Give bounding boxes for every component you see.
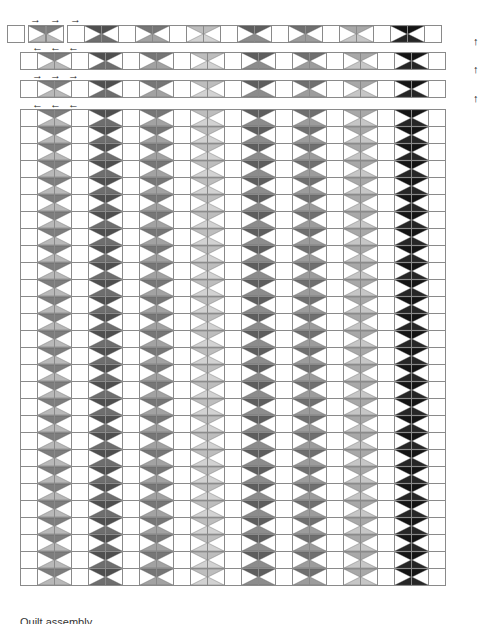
hourglass-half-cell (241, 449, 259, 467)
plain-square-cell (424, 25, 442, 43)
hourglass-half-cell (309, 483, 327, 501)
plain-square-cell (122, 279, 140, 297)
plain-square-cell (428, 466, 446, 484)
hourglass-half-cell (394, 296, 412, 314)
plain-square-cell (20, 398, 38, 416)
hourglass-half-cell (360, 517, 378, 535)
plain-square-cell (122, 126, 140, 144)
hourglass-half-cell (54, 194, 72, 212)
hourglass-half-cell (105, 160, 123, 178)
hourglass-half-cell (258, 143, 276, 161)
hourglass-half-cell (139, 296, 157, 314)
plain-square-cell (275, 160, 293, 178)
hourglass-half-cell (37, 245, 55, 263)
plain-square-cell (428, 330, 446, 348)
plain-square-cell (275, 80, 293, 98)
plain-square-cell (20, 52, 38, 70)
hourglass-half-cell (190, 211, 208, 229)
hourglass-half-cell (37, 279, 55, 297)
hourglass-half-cell (156, 415, 174, 433)
hourglass-half-cell (88, 551, 106, 569)
hourglass-half-cell (309, 313, 327, 331)
hourglass-half-cell (411, 483, 429, 501)
hourglass-half-cell (37, 296, 55, 314)
hourglass-half-cell (203, 25, 221, 43)
plain-square-cell (275, 52, 293, 70)
plain-square-cell (20, 534, 38, 552)
hourglass-half-cell (54, 500, 72, 518)
hourglass-half-cell (88, 279, 106, 297)
hourglass-half-cell (411, 500, 429, 518)
plain-square-cell (173, 483, 191, 501)
hourglass-half-cell (156, 551, 174, 569)
hourglass-half-cell (292, 313, 310, 331)
hourglass-half-cell (258, 449, 276, 467)
hourglass-half-cell (343, 52, 361, 70)
plain-square-cell (71, 194, 89, 212)
hourglass-half-cell (207, 398, 225, 416)
plain-square-cell (71, 211, 89, 229)
hourglass-half-cell (37, 52, 55, 70)
plain-square-cell (173, 194, 191, 212)
plain-square-cell (377, 228, 395, 246)
hourglass-half-cell (411, 245, 429, 263)
hourglass-half-cell (394, 330, 412, 348)
hourglass-half-cell (190, 177, 208, 195)
hourglass-half-cell (258, 500, 276, 518)
hourglass-half-cell (54, 279, 72, 297)
hourglass-half-cell (411, 551, 429, 569)
plain-square-cell (173, 517, 191, 535)
hourglass-half-cell (241, 313, 259, 331)
hourglass-half-cell (360, 500, 378, 518)
hourglass-half-cell (105, 568, 123, 586)
hourglass-half-cell (207, 126, 225, 144)
plain-square-cell (20, 568, 38, 586)
hourglass-half-cell (105, 262, 123, 280)
hourglass-half-cell (360, 330, 378, 348)
plain-square-cell (275, 449, 293, 467)
hourglass-half-cell (411, 313, 429, 331)
plain-square-cell (224, 534, 242, 552)
plain-square-cell (275, 194, 293, 212)
hourglass-half-cell (360, 313, 378, 331)
grid-row (20, 466, 446, 484)
plain-square-cell (377, 211, 395, 229)
plain-square-cell (71, 245, 89, 263)
hourglass-half-cell (309, 143, 327, 161)
hourglass-half-cell (309, 109, 327, 127)
hourglass-half-cell (190, 415, 208, 433)
plain-square-cell (275, 568, 293, 586)
hourglass-half-cell (360, 449, 378, 467)
plain-square-cell (224, 80, 242, 98)
hourglass-half-cell (292, 364, 310, 382)
hourglass-half-cell (156, 568, 174, 586)
plain-square-cell (173, 211, 191, 229)
hourglass-half-cell (190, 160, 208, 178)
plain-square-cell (377, 160, 395, 178)
hourglass-half-cell (309, 330, 327, 348)
plain-square-cell (224, 177, 242, 195)
plain-square-cell (71, 483, 89, 501)
hourglass-half-cell (241, 109, 259, 127)
hourglass-half-cell (292, 245, 310, 263)
plain-square-cell (173, 449, 191, 467)
hourglass-half-cell (105, 80, 123, 98)
hourglass-half-cell (394, 364, 412, 382)
hourglass-half-cell (88, 80, 106, 98)
plain-square-cell (428, 80, 446, 98)
hourglass-half-cell (190, 534, 208, 552)
plain-square-cell (122, 52, 140, 70)
plain-square-cell (428, 262, 446, 280)
hourglass-half-cell (258, 228, 276, 246)
hourglass-half-cell (309, 296, 327, 314)
hourglass-half-cell (394, 245, 412, 263)
hourglass-half-cell (88, 52, 106, 70)
hourglass-half-cell (207, 330, 225, 348)
hourglass-half-cell (343, 296, 361, 314)
plain-square-cell (224, 126, 242, 144)
hourglass-half-cell (411, 398, 429, 416)
plain-square-cell (122, 313, 140, 331)
plain-square-cell (326, 279, 344, 297)
hourglass-half-cell (343, 466, 361, 484)
plain-square-cell (428, 534, 446, 552)
